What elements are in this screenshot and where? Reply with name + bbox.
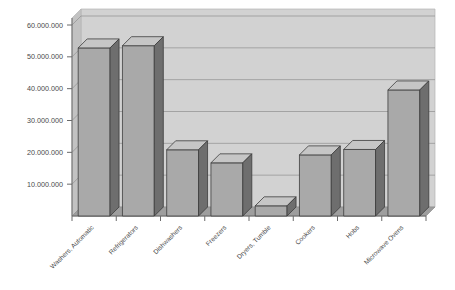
x-axis-category-labels: Washers, AutomaticRefrigeratorsDishwashe… (49, 223, 405, 270)
x-axis-category-label: Hobs (344, 223, 360, 239)
y-axis-tick-label: 40.000.000 (27, 84, 63, 93)
y-axis-tick-label: 50.000.000 (27, 52, 63, 61)
x-axis-category-label: Dryers, Tumble (235, 224, 273, 262)
x-axis-category-label: Freezers (204, 223, 228, 247)
bar-8 (388, 81, 429, 216)
bar-4 (211, 154, 252, 216)
bar-6 (299, 146, 340, 216)
x-axis-category-label: Refrigerators (107, 223, 140, 256)
x-axis-category-label: Microwave Ovens (363, 223, 405, 265)
x-axis-category-label: Washers, Automatic (49, 223, 96, 270)
bar-1 (78, 39, 119, 216)
chart-canvas: 10.000.00020.000.00030.000.00040.000.000… (0, 0, 455, 290)
x-axis-category-label: Dishwashers (152, 223, 184, 255)
y-axis-tick-label: 20.000.000 (27, 148, 63, 157)
x-axis-category-label: Cookers (294, 223, 317, 246)
y-axis-tick-label: 60.000.000 (27, 21, 63, 30)
bar-chart-figure: 10.000.00020.000.00030.000.00040.000.000… (0, 0, 455, 290)
bar-2 (122, 37, 163, 216)
bar-7 (344, 140, 385, 216)
y-axis-tick-label: 10.000.000 (27, 180, 63, 189)
y-axis-ticks (67, 25, 72, 184)
bar-3 (167, 141, 208, 216)
y-axis-tick-labels: 10.000.00020.000.00030.000.00040.000.000… (27, 21, 63, 189)
bar-5 (255, 197, 296, 216)
x-axis-ticks (72, 216, 426, 221)
y-axis-tick-label: 30.000.000 (27, 116, 63, 125)
